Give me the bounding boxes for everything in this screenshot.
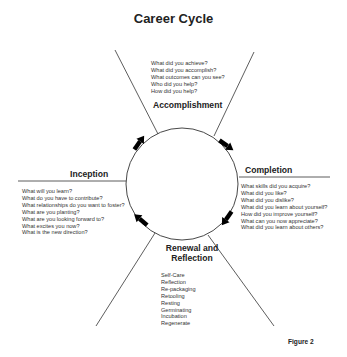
question: What did you learn about others? bbox=[241, 224, 327, 231]
phase-label-inception: Inception bbox=[70, 169, 108, 179]
renewal-items: Self-Care Reflection Re-packaging Retool… bbox=[161, 272, 196, 327]
question: What outcomes can you see? bbox=[151, 74, 225, 81]
question: What will you learn? bbox=[22, 188, 125, 195]
question: What did you achieve? bbox=[151, 60, 225, 67]
renewal-item: Re-packaging bbox=[161, 286, 196, 293]
question: What can you now appreciate? bbox=[241, 218, 327, 225]
question: What is the new direction? bbox=[22, 229, 125, 236]
question: What did you learn about yourself? bbox=[241, 204, 327, 211]
arrow-lower-right-icon bbox=[218, 209, 235, 228]
inception-questions: What will you learn? What do you have to… bbox=[22, 188, 125, 236]
renewal-item: Reflection bbox=[161, 279, 196, 286]
renewal-item: Resting bbox=[161, 300, 196, 307]
figure-label: Figure 2 bbox=[288, 338, 314, 345]
question: Who did you help? bbox=[151, 81, 225, 88]
question: How did you improve yourself? bbox=[241, 211, 327, 218]
question: What did you like? bbox=[241, 190, 327, 197]
renewal-item: Self-Care bbox=[161, 272, 196, 279]
question: What excites you now? bbox=[22, 223, 125, 230]
question: What skills did you acquire? bbox=[241, 183, 327, 190]
arrow-upper-right-icon bbox=[217, 137, 236, 154]
divider-lower-left bbox=[96, 233, 155, 326]
phase-label-renewal-line1: Renewal and bbox=[155, 243, 229, 253]
renewal-item: Retooling bbox=[161, 293, 196, 300]
renewal-item: Germinating bbox=[161, 307, 196, 314]
question: What did you accomplish? bbox=[151, 67, 225, 74]
accomplishment-questions: What did you achieve? What did you accom… bbox=[151, 60, 225, 95]
diagram-title: Career Cycle bbox=[0, 11, 347, 26]
phase-label-renewal-line2: Reflection bbox=[155, 253, 229, 263]
renewal-item: Regenerate bbox=[161, 320, 196, 327]
question: What are you planting? bbox=[22, 209, 125, 216]
phase-label-renewal: Renewal and Reflection bbox=[155, 243, 229, 263]
question: What do you have to contribute? bbox=[22, 195, 125, 202]
arrow-upper-left-icon bbox=[131, 133, 148, 152]
completion-questions: What skills did you acquire? What did yo… bbox=[241, 183, 327, 231]
question: What relationships do you want to foster… bbox=[22, 202, 125, 209]
question: What did you dislike? bbox=[241, 197, 327, 204]
phase-label-completion: Completion bbox=[245, 165, 292, 175]
question: What are you looking forward to? bbox=[22, 216, 125, 223]
question: How did you help? bbox=[151, 88, 225, 95]
phase-label-accomplishment: Accomplishment bbox=[153, 100, 222, 110]
renewal-item: Incubation bbox=[161, 313, 196, 320]
